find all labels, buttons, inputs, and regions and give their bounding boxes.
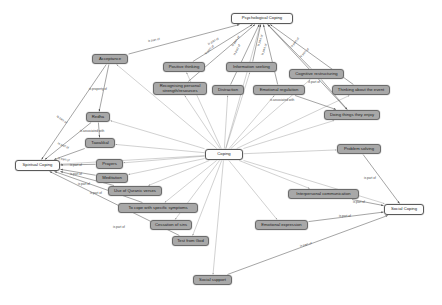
edge-label-distraction-psych: is part of [232,44,241,56]
edge-label-testgod-spiritual: is part of [113,225,125,229]
edge-label-interpersonal-social: is part of [353,200,365,204]
edge-label-emoreg-psych: is part of [256,34,264,47]
edge-label-infoseek-psych: is part of [230,35,240,47]
edge-label-thinkevent-psych: is part of [289,37,300,49]
edge-label-acceptance-spiritual: is part of [56,114,68,124]
edge-label-enjoy-psych: is part of [299,47,310,58]
concept-map-canvas: CopingPsychological CopingSpiritual Copi… [0,0,442,305]
edge-label-emoexpr-social: is part of [339,214,351,218]
edge-label-symptoms-spiritual: is part of [90,191,102,195]
edge-label-prayers-spiritual: is part of [70,163,82,167]
edge-label-emoreg-enjoy: is associated with [270,98,294,102]
edge-label-meditation-spiritual: is part of [70,172,82,176]
edge-label-redha-spiritual: is part of [57,141,69,150]
edge-label-socsupport-social: is part of [300,241,312,248]
edge-label-acceptance-redha: is property of [89,87,107,91]
edge-label-cogrestruct-psych: is part of [260,43,268,56]
edge-label-tawakkul-spiritual: is part of [58,156,70,162]
edge-label-acceptance-psych: is part of [148,37,160,43]
edge-label-layer: is part ofis part ofis part ofis part of… [0,0,442,305]
edge-label-quranic-spiritual: is part of [78,182,90,186]
edge-label-redha-tawakkul: is associated with [80,129,104,133]
edge-label-positive-psych: is part of [207,37,219,46]
edge-label-cogrestruct-enjoy: is part of [308,80,320,84]
edge-label-recognising-psych: is part of [204,44,215,55]
edge-label-problemsolv-social: is part of [364,176,376,180]
